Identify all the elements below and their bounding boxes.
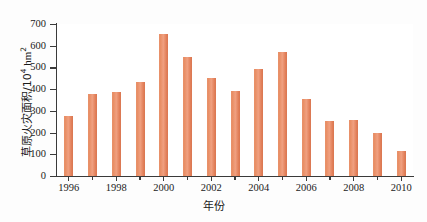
bar bbox=[112, 92, 121, 176]
y-axis-title-exponent: 4 bbox=[19, 69, 28, 74]
x-axis-title: 年份 bbox=[0, 197, 427, 213]
bar bbox=[302, 99, 311, 176]
bar bbox=[397, 151, 406, 176]
y-axis-title-unit: hm bbox=[21, 52, 33, 69]
bar bbox=[325, 121, 334, 176]
y-axis-title-unit-exponent: 2 bbox=[19, 47, 28, 52]
bar bbox=[183, 57, 192, 176]
bar bbox=[64, 116, 73, 176]
bar bbox=[207, 78, 216, 176]
bar bbox=[254, 69, 263, 176]
bar bbox=[88, 94, 97, 176]
bar bbox=[159, 34, 168, 176]
bar bbox=[373, 133, 382, 176]
bar bbox=[231, 91, 240, 176]
bar bbox=[278, 52, 287, 176]
chart-figure: 7006005004003002001000 19961998200020022… bbox=[0, 0, 427, 222]
y-axis-title: 草原火灾面积/104 hm2 bbox=[18, 22, 34, 182]
y-axis-title-text: 草原火灾面积/10 bbox=[21, 73, 34, 157]
bar-series bbox=[0, 0, 427, 222]
bar bbox=[136, 82, 145, 176]
bar bbox=[349, 120, 358, 176]
